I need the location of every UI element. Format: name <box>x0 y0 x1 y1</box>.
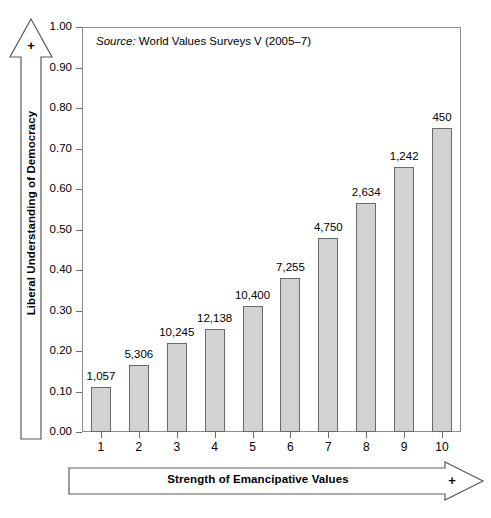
x-axis-tick <box>442 432 443 438</box>
x-axis-tick <box>404 432 405 438</box>
x-axis-tick-label: 9 <box>384 440 424 454</box>
x-axis-tick-label: 6 <box>270 440 310 454</box>
plot-area <box>82 27 461 432</box>
chart-figure: + Liberal Understanding of Democracy Str… <box>0 0 491 518</box>
x-axis-tick <box>101 432 102 438</box>
x-axis-title: Strength of Emancipative Values <box>67 473 449 485</box>
source-note-label: Source: <box>96 35 136 47</box>
x-axis-tick <box>177 432 178 438</box>
x-axis-plus-sign: + <box>437 473 467 488</box>
x-axis-tick-label: 1 <box>81 440 121 454</box>
source-note: Source: World Values Surveys V (2005–7) <box>96 35 311 47</box>
x-axis-tick-label: 4 <box>195 440 235 454</box>
y-axis-arrow: + Liberal Understanding of Democracy <box>8 17 54 441</box>
x-axis-tick <box>215 432 216 438</box>
x-axis-tick-label: 3 <box>157 440 197 454</box>
y-axis-title: Liberal Understanding of Democracy <box>25 33 37 393</box>
x-axis-tick-label: 2 <box>119 440 159 454</box>
x-axis-tick-label: 8 <box>346 440 386 454</box>
x-axis-tick <box>328 432 329 438</box>
x-axis-tick <box>253 432 254 438</box>
x-axis-tick <box>290 432 291 438</box>
x-axis-tick <box>139 432 140 438</box>
y-axis-tick <box>76 432 82 433</box>
x-axis-tick-label: 7 <box>308 440 348 454</box>
x-axis-arrow: Strength of Emancipative Values + <box>67 460 485 502</box>
x-axis-tick-label: 5 <box>233 440 273 454</box>
x-axis-tick <box>366 432 367 438</box>
source-note-text: World Values Surveys V (2005–7) <box>136 35 311 47</box>
x-axis-tick-label: 10 <box>422 440 462 454</box>
